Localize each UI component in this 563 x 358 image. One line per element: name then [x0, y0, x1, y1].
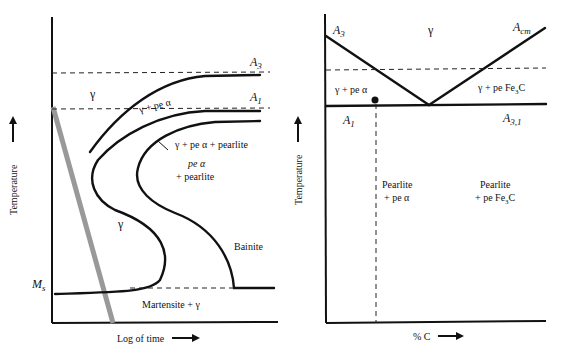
a3-label: A3: [249, 55, 262, 71]
a3-line: [52, 72, 270, 73]
eutectoid-line: [326, 104, 546, 106]
a3-label: A3: [332, 23, 345, 39]
ttt-diagram: A3 A1 γ γ + pe α γ + pe α + pearlite pe …: [8, 17, 278, 344]
region-gamma-pe-alpha: γ + pe α: [334, 84, 368, 95]
acm-label: Acm: [512, 20, 531, 36]
diagram-canvas: A3 A1 γ γ + pe α γ + pe α + pearlite pe …: [0, 0, 563, 358]
label-pointer: [158, 141, 168, 150]
composition-point: [372, 97, 379, 104]
region-bainite: Bainite: [234, 241, 263, 252]
region-martensite: Martensite + γ: [142, 299, 200, 310]
y-axis-arrow-icon: [294, 116, 302, 142]
region-pe-alpha: pe α: [187, 158, 206, 169]
a1-label: A1: [249, 90, 262, 106]
acm-line: [429, 28, 545, 105]
y-axis: [325, 14, 326, 323]
x-axis-arrow-icon: [172, 334, 200, 342]
region-gamma-mid: γ: [117, 217, 124, 231]
y-axis-arrow-icon: [9, 116, 17, 142]
region-gamma-pe-fe3c: γ + pe Fe3C: [477, 82, 526, 96]
y-axis-label: Temperature: [293, 154, 304, 205]
x-axis-arrow-icon: [438, 332, 464, 340]
x-axis-label: Log of time: [117, 333, 165, 344]
region-pearlite-pe-fe3c-line1: Pearlite: [480, 179, 511, 190]
y-axis-label: Temperature: [8, 164, 19, 215]
region-pe-alpha-pearlite: + pearlite: [176, 171, 215, 182]
region-gamma-top: γ: [89, 87, 96, 101]
phase-diagram: A3 γ Acm γ + pe α γ + pe Fe3C A1 A3,1 Pe…: [293, 14, 546, 342]
ms-label: Ms: [31, 277, 46, 293]
region-pearlite-pe-fe3c-line2: + pe Fe3C: [475, 192, 516, 206]
temperature-dashed-line: [326, 68, 546, 70]
x-axis-label: % C: [413, 331, 431, 342]
x-axis: [326, 321, 546, 323]
x-axis: [52, 322, 278, 323]
a1-label: A1: [342, 113, 355, 129]
cooling-curve: [53, 107, 113, 323]
region-pearlite-pe-alpha-line1: Pearlite: [382, 179, 413, 190]
region-gamma: γ: [427, 23, 434, 37]
region-gamma-pe-alpha-pearlite: γ + pe α + pearlite: [174, 139, 248, 150]
a31-label: A3,1: [502, 111, 522, 127]
region-pearlite-pe-alpha-line2: + pe α: [384, 192, 410, 203]
